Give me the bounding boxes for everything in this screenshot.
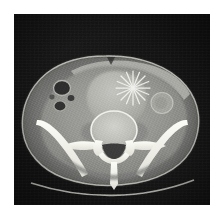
marker-label [0,0,1,1]
ct-figure-root: CT axial abdomen/pelvis [0,0,217,212]
ct-scan-field [14,14,210,205]
bowel-loop-lower [54,101,66,111]
modality-label: CT [0,0,1,1]
round-vessel-right [151,93,173,114]
region-label: abdomen/pelvis [0,0,1,1]
bowel-loop-left [54,81,71,96]
asterisk-marker [116,71,150,105]
figure-caption [0,0,1,1]
plane-label: axial [0,0,1,1]
ct-scan-image [14,14,210,205]
